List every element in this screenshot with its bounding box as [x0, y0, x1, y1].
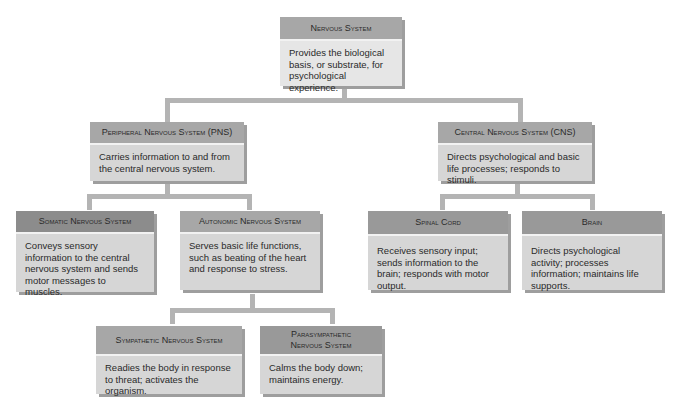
node-brain: Brain Directs psychological activity; pr…: [522, 211, 662, 290]
node-description: Serves basic life functions, such as bea…: [180, 234, 320, 290]
node-description: Provides the biological basis, or substr…: [280, 41, 402, 86]
node-central-nervous-system: Central Nervous System (CNS) Directs psy…: [438, 122, 592, 181]
node-description: Directs psychological and basic life pro…: [438, 145, 592, 181]
connector-spinal-up: [440, 194, 445, 210]
node-description: Readies the body in response to threat; …: [96, 356, 242, 394]
node-description: Directs psychological activity; processe…: [522, 236, 662, 290]
node-spinal-cord: Spinal Cord Receives sensory input; send…: [368, 211, 508, 290]
node-peripheral-nervous-system: Peripheral Nervous System (PNS) Carries …: [90, 122, 244, 181]
connector-pns-bar: [87, 194, 252, 199]
node-nervous-system: Nervous System Provides the biological b…: [280, 17, 402, 86]
connector-autonomic-up: [247, 194, 252, 210]
node-title: Central Nervous System (CNS): [438, 122, 592, 145]
node-title: Somatic Nervous System: [16, 211, 154, 234]
node-description: Conveys sensory information to the centr…: [16, 234, 154, 292]
connector-level1-bar: [165, 98, 523, 103]
node-title: Spinal Cord: [368, 211, 508, 236]
node-description: Receives sensory input; sends informatio…: [368, 236, 508, 290]
connector-cns-up: [518, 98, 523, 124]
node-description: Carries information to and from the cent…: [90, 145, 244, 181]
node-parasympathetic-nervous-system: Parasympathetic Nervous System Calms the…: [260, 326, 382, 394]
node-title: Peripheral Nervous System (PNS): [90, 122, 244, 145]
node-description: Calms the body down; maintains energy.: [260, 356, 382, 394]
connector-cns-bar: [440, 194, 595, 199]
connector-somatic-up: [87, 194, 92, 210]
node-title: Brain: [522, 211, 662, 236]
connector-parasympathetic-up: [330, 308, 335, 324]
connector-autonomic-bar: [170, 308, 335, 313]
node-title: Parasympathetic Nervous System: [260, 326, 382, 356]
node-title: Nervous System: [280, 17, 402, 41]
connector-pns-up: [165, 98, 170, 124]
node-title: Sympathetic Nervous System: [96, 326, 242, 356]
node-somatic-nervous-system: Somatic Nervous System Conveys sensory i…: [16, 211, 154, 292]
node-sympathetic-nervous-system: Sympathetic Nervous System Readies the b…: [96, 326, 242, 394]
node-autonomic-nervous-system: Autonomic Nervous System Serves basic li…: [180, 211, 320, 290]
connector-sympathetic-up: [170, 308, 175, 324]
connector-brain-up: [590, 194, 595, 210]
node-title: Autonomic Nervous System: [180, 211, 320, 234]
